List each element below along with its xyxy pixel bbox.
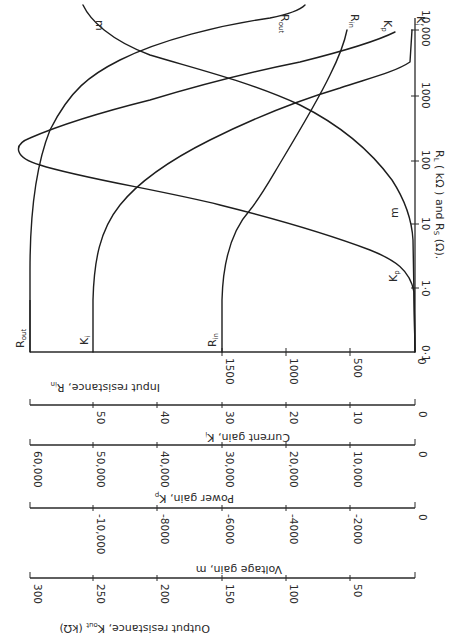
rotated-chart: Rout Ki Rin m Rout Rin Kp Ki m Kp 0·1 1·… xyxy=(0,0,452,637)
label-rout-left: Rout xyxy=(14,329,28,348)
ki-tick-10: 10 xyxy=(352,411,364,424)
m-tick-6000: -6000 xyxy=(224,514,236,545)
rin-tick-0: 0 xyxy=(416,358,428,365)
rin-tick-500: 500 xyxy=(352,358,364,378)
ki-axis-title: Current gain, Ki xyxy=(205,430,290,444)
rout-tick-100: 100 xyxy=(288,584,300,604)
curve-labels: Rout Ki Rin m Rout Rin Kp Ki m Kp xyxy=(14,14,427,348)
rout-tick-200: 200 xyxy=(159,584,171,604)
rout-axis-title: Output resistance, Kout (kΩ) xyxy=(59,621,210,635)
m-tick-2000: -2000 xyxy=(352,514,364,545)
label-m-lower: m xyxy=(388,207,401,218)
kp-tick-50000: 50,000 xyxy=(95,451,107,488)
rin-scale: 0 500 1000 1500 Input resistance, Rin xyxy=(51,358,428,394)
x-tick-10: 10 xyxy=(420,217,432,230)
curve-ki xyxy=(93,30,412,352)
curve-kp xyxy=(19,32,415,352)
ki-tick-40: 40 xyxy=(159,411,171,424)
label-rout-top: Rout xyxy=(277,14,291,33)
kp-tick-20000: 20,000 xyxy=(288,451,300,488)
curve-rout xyxy=(30,5,305,352)
m-tick-10000: -10,000 xyxy=(95,514,107,555)
ki-tick-50: 50 xyxy=(95,411,107,424)
x-axis-labels: 0·1 1·0 10 100 1000 10,000 RL ( kΩ ) and… xyxy=(420,10,446,362)
ki-tick-30: 30 xyxy=(224,411,236,424)
kp-tick-60000: 60,000 xyxy=(32,451,44,488)
curve-m xyxy=(83,5,415,352)
rin-tick-1000: 1000 xyxy=(288,358,300,385)
kp-scale: 0 10,000 20,000 30,000 40,000 50,000 60,… xyxy=(30,439,429,505)
ki-tick-20: 20 xyxy=(288,411,300,424)
rin-axis-title: Input resistance, Rin xyxy=(51,380,160,394)
x-tick-1: 1·0 xyxy=(420,280,432,297)
kp-axis-title: Power gain, Kp xyxy=(154,491,234,505)
m-tick-0: 0 xyxy=(417,514,429,521)
rout-tick-50: 50 xyxy=(352,584,364,597)
rin-tick-1500: 1500 xyxy=(224,358,236,385)
rout-tick-300: 300 xyxy=(32,584,44,604)
m-tick-4000: -4000 xyxy=(288,514,300,545)
ki-tick-0: 0 xyxy=(417,411,429,418)
x-tick-10000: 10,000 xyxy=(420,10,432,47)
label-rin-top: Rin xyxy=(347,14,361,28)
kp-tick-10000: 10,000 xyxy=(352,451,364,488)
label-m-top: m xyxy=(93,20,106,31)
m-axis-title: Voltage gain, m xyxy=(196,563,282,576)
label-kp-lower: Kp xyxy=(387,270,401,282)
x-tick-100: 100 xyxy=(420,150,432,170)
ki-scale: 0 10 20 30 40 50 Current gain, Ki xyxy=(30,399,429,444)
curve-rin xyxy=(222,30,347,352)
rout-tick-150: 150 xyxy=(224,584,236,604)
kp-tick-30000: 30,000 xyxy=(224,451,236,488)
x-tick-1000: 1000 xyxy=(420,82,432,109)
m-scale: 0 -2000 -4000 -6000 -8000 -10,000 Voltag… xyxy=(30,502,429,576)
kp-tick-0: 0 xyxy=(417,451,429,458)
curves xyxy=(19,5,415,352)
label-rin-left: Rin xyxy=(206,333,220,347)
rout-scale: 50 100 150 200 250 300 Output resistance… xyxy=(30,572,415,635)
m-tick-8000: -8000 xyxy=(159,514,171,545)
kp-tick-40000: 40,000 xyxy=(159,451,171,488)
rout-tick-250: 250 xyxy=(95,584,107,604)
x-axis-title: RL ( kΩ ) and RS (Ω). xyxy=(432,150,446,259)
label-kp-top: Kp xyxy=(380,20,394,32)
label-ki-left: Ki xyxy=(78,336,92,345)
